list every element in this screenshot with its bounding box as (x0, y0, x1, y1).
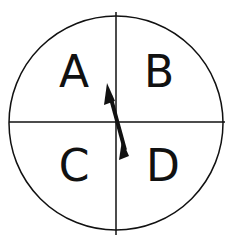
section-label-d: D (146, 140, 180, 191)
spinner: A B C D (0, 0, 229, 242)
section-label-a: A (59, 46, 89, 97)
spinner-diagram: A B C D (0, 0, 229, 242)
section-label-b: B (144, 46, 174, 97)
section-label-c: C (59, 140, 90, 191)
